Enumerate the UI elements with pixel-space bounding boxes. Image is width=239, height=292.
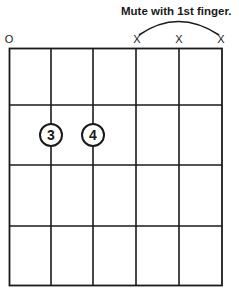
svg-text:3: 3 xyxy=(47,127,55,143)
finger-dot-4: 4 xyxy=(82,124,104,146)
mute-string-marker: X xyxy=(217,33,225,45)
svg-text:4: 4 xyxy=(89,127,97,143)
open-string-marker: O xyxy=(5,33,14,45)
finger-dot-3: 3 xyxy=(40,124,62,146)
chord-diagram: O X X X 3 4 xyxy=(0,0,239,292)
mute-string-marker: X xyxy=(175,33,183,45)
fretboard-grid xyxy=(9,48,222,286)
mute-string-marker: X xyxy=(133,33,141,45)
